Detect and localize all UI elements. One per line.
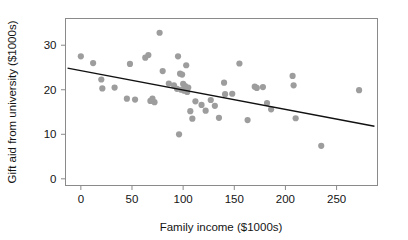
data-point <box>212 103 218 109</box>
data-point <box>208 97 214 103</box>
data-point <box>98 76 104 82</box>
scatter-plot-figure: 050100150200250 0102030 Family income ($… <box>0 0 408 240</box>
y-tick-label: 0 <box>50 173 56 185</box>
data-point <box>203 108 209 114</box>
data-point <box>145 52 151 58</box>
data-point <box>124 96 130 102</box>
data-point <box>132 96 138 102</box>
data-point <box>179 72 185 78</box>
y-tick-label: 20 <box>44 84 57 96</box>
data-point <box>229 91 235 97</box>
y-axis-label: Gift aid from university ($1000s) <box>6 20 18 183</box>
data-point <box>175 53 181 59</box>
data-point <box>198 102 204 108</box>
data-point <box>189 116 195 122</box>
data-point <box>254 85 260 91</box>
data-point <box>183 62 189 68</box>
data-point <box>176 131 182 137</box>
data-point <box>222 91 228 97</box>
x-axis-ticks: 050100150200250 <box>78 186 347 205</box>
data-point <box>192 98 198 104</box>
data-point <box>236 60 242 66</box>
x-tick-label: 250 <box>327 193 346 205</box>
data-point <box>157 30 163 36</box>
data-point <box>356 87 362 93</box>
data-point <box>318 143 324 149</box>
y-tick-label: 30 <box>44 39 57 51</box>
x-tick-label: 0 <box>78 193 84 205</box>
x-tick-label: 200 <box>276 193 295 205</box>
data-points-layer <box>78 30 362 149</box>
x-tick-label: 100 <box>174 193 193 205</box>
data-point <box>127 61 133 67</box>
y-axis-ticks: 0102030 <box>44 39 66 185</box>
data-point <box>78 53 84 59</box>
data-point <box>112 84 118 90</box>
y-tick-label: 10 <box>44 128 57 140</box>
data-point <box>99 85 105 91</box>
x-tick-label: 50 <box>126 193 139 205</box>
data-point <box>160 68 166 74</box>
x-axis-label: Family income ($1000s) <box>160 221 283 233</box>
data-point <box>244 117 250 123</box>
plot-frame <box>66 19 378 186</box>
data-point <box>187 108 193 114</box>
plot-canvas: 050100150200250 0102030 Family income ($… <box>0 0 408 240</box>
data-point <box>149 96 155 102</box>
data-point <box>221 80 227 86</box>
data-point <box>260 84 266 90</box>
data-point <box>289 73 295 79</box>
data-point <box>291 82 297 88</box>
data-point <box>90 60 96 66</box>
data-point <box>293 115 299 121</box>
x-tick-label: 150 <box>225 193 244 205</box>
data-point <box>216 115 222 121</box>
